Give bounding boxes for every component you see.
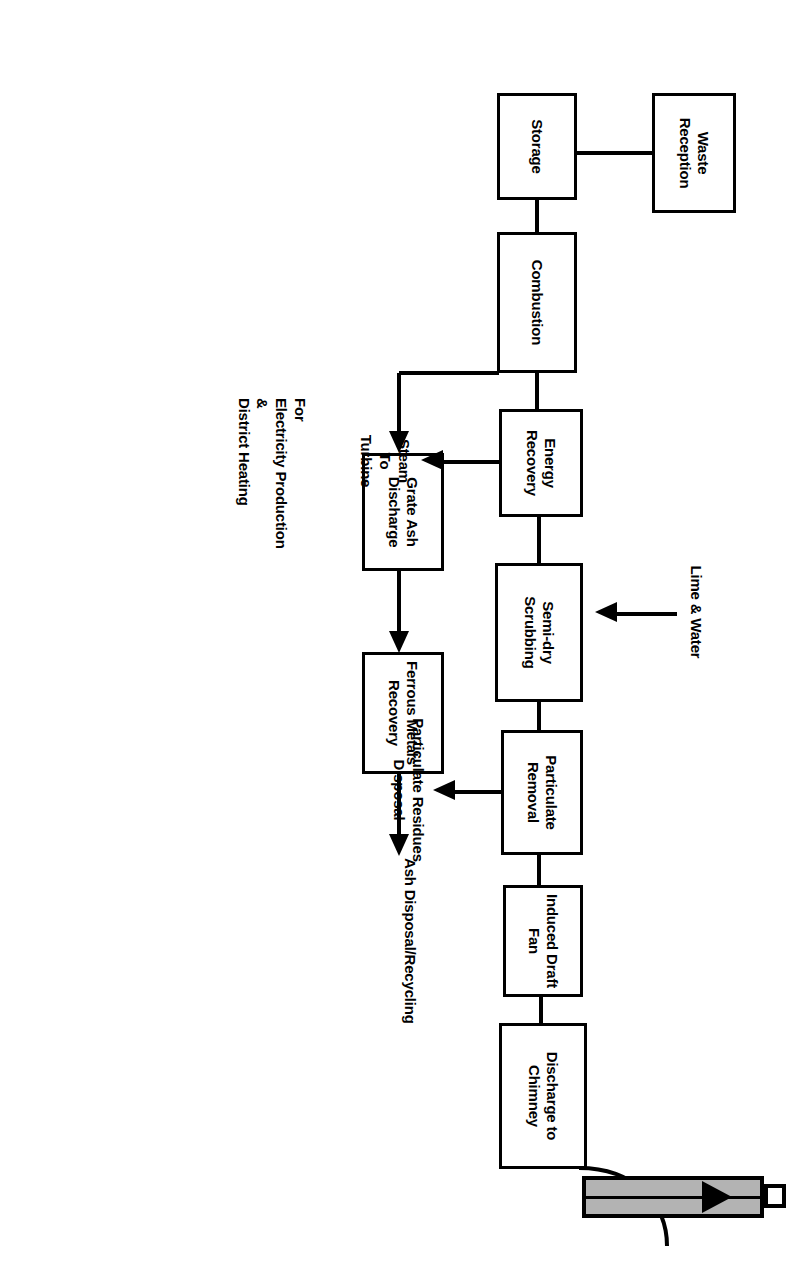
connector-particulate-removal-to-fan — [537, 853, 541, 887]
connector-scrubbing-to-particulate-removal — [537, 700, 541, 732]
node-discharge-to-chimney[interactable]: Discharge to Chimney — [499, 1023, 587, 1169]
node-induced-draft-fan[interactable]: Induced Draft Fan — [503, 885, 583, 997]
connector-energy-recovery-to-steam-shaft — [439, 460, 501, 464]
connector-combustion-down-to-ash-branch — [399, 371, 499, 375]
node-energy-recovery-label: Energy Recovery — [523, 412, 558, 514]
chimney-cap — [764, 1184, 786, 1208]
node-waste-reception[interactable]: Waste Reception — [652, 93, 736, 213]
node-particulate-removal[interactable]: Particulate Removal — [501, 730, 583, 855]
arrow-head-steam — [421, 450, 443, 470]
node-energy-recovery[interactable]: Energy Recovery — [499, 409, 583, 517]
annotation-lime-and-water: Lime & Water — [686, 532, 705, 692]
chimney-flow-arrow-icon — [702, 1181, 732, 1213]
node-storage[interactable]: Storage — [497, 93, 577, 200]
node-waste-reception-label: Waste Reception — [676, 96, 711, 210]
annotation-steam-to-turbine: Steam To Turbine — [357, 403, 413, 519]
node-combustion[interactable]: Combustion — [497, 232, 577, 373]
arrow-head-particulate-residues — [433, 780, 455, 800]
connector-storage-to-combustion — [535, 198, 539, 234]
diagram-canvas: Waste Reception Storage Combustion Energ… — [0, 0, 809, 1268]
arrow-head-lime-water — [595, 602, 617, 622]
node-storage-label: Storage — [528, 117, 546, 175]
diagram-rotation-wrapper: Waste Reception Storage Combustion Energ… — [0, 0, 809, 1268]
chimney-stack — [582, 1176, 764, 1218]
arrow-head — [389, 631, 409, 653]
connector-particulate-residues-shaft — [451, 790, 503, 794]
connector-fan-to-discharge — [539, 995, 543, 1025]
connector-energy-recovery-to-scrubbing — [537, 515, 541, 565]
annotation-particulate-residues-disposal: Particulate Residues Disposal — [390, 665, 428, 915]
connector-combustion-to-energy-recovery — [535, 371, 539, 411]
node-semi-dry-scrubbing[interactable]: Semi-dry Scrubbing — [495, 563, 583, 702]
chimney-center-line — [586, 1196, 760, 1199]
annotation-steam-use-note: For Electricity Production & District He… — [234, 398, 309, 668]
node-semi-dry-scrubbing-label: Semi-dry Scrubbing — [521, 566, 556, 699]
connector-lime-water-shaft — [615, 612, 677, 616]
arrow-shaft — [397, 569, 401, 635]
node-combustion-label: Combustion — [528, 258, 546, 348]
node-particulate-removal-label: Particulate Removal — [524, 733, 559, 852]
node-discharge-to-chimney-label: Discharge to Chimney — [525, 1026, 560, 1166]
node-induced-draft-fan-label: Induced Draft Fan — [525, 888, 560, 994]
connector-waste-reception-to-storage — [575, 151, 654, 155]
arrow-grate-ash-to-ferrous — [389, 569, 409, 655]
